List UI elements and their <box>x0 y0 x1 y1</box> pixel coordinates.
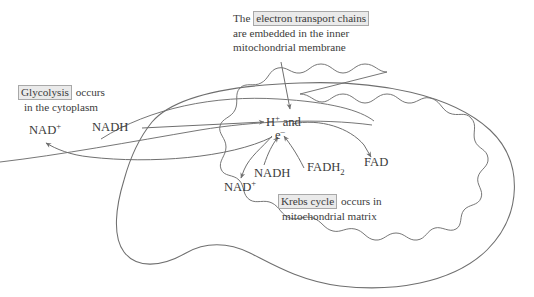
label-nad-plus-cytoplasm: NAD+ <box>29 121 61 138</box>
etc-line1-prefix: The <box>233 12 250 24</box>
glycolysis-line1-suffix: occurs <box>76 86 105 98</box>
label-fadh2: FADH2 <box>307 160 345 177</box>
label-nadh-cytoplasm: NADH <box>92 120 128 135</box>
fadh2-base: FADH <box>307 160 340 174</box>
arrow-nadh-to-h-icon <box>142 122 264 128</box>
outer-membrane-icon <box>116 83 514 288</box>
arrow-fadh2-to-e-icon <box>284 136 304 168</box>
diagram-canvas: The electron transport chains are embedd… <box>0 0 534 297</box>
label-nadh-matrix: NADH <box>254 166 290 181</box>
etc-line-3: mitochondrial membrane <box>233 40 370 54</box>
etc-line-1: The electron transport chains <box>233 11 370 26</box>
nad-plus-matrix-base: NAD <box>224 180 251 194</box>
h-plus-base: H <box>266 115 275 129</box>
fadh2-subscript: 2 <box>340 167 344 177</box>
krebs-line-2: mitochondrial matrix <box>278 209 382 223</box>
etc-line-2: are embedded in the inner <box>233 26 370 40</box>
term-electron-transport-chains: electron transport chains <box>253 11 369 26</box>
label-fad: FAD <box>364 155 388 170</box>
term-glycolysis: Glycolysis <box>18 85 72 100</box>
nad-plus-cytoplasm-base: NAD <box>29 123 56 137</box>
arrow-h-to-nad-left-icon <box>46 137 272 160</box>
krebs-line-1: Krebs cycle occurs in <box>278 194 382 209</box>
annotation-electron-transport-chains: The electron transport chains are embedd… <box>233 11 370 55</box>
nad-plus-cytoplasm-charge: + <box>56 121 61 131</box>
krebs-line1-suffix: occurs in <box>341 195 382 207</box>
arrow-e-to-fad-icon <box>292 122 371 157</box>
annotation-glycolysis: Glycolysis occurs in the cytoplasm <box>18 85 105 114</box>
h-e-conjunction: and <box>283 115 301 129</box>
glycolysis-line-1: Glycolysis occurs <box>18 85 105 100</box>
label-electron: e– <box>275 126 285 143</box>
electron-charge: – <box>281 126 285 136</box>
annotation-krebs-cycle: Krebs cycle occurs in mitochondrial matr… <box>278 194 382 223</box>
term-krebs-cycle: Krebs cycle <box>278 194 337 209</box>
glycolysis-line-2: in the cytoplasm <box>18 100 105 114</box>
label-nad-plus-matrix: NAD+ <box>224 178 256 195</box>
